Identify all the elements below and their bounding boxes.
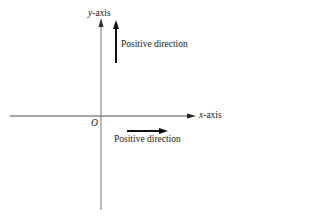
origin-label: O — [91, 119, 98, 129]
x-axis-label: x-axis — [199, 111, 222, 121]
y-positive-direction-label: Positive direction — [121, 40, 188, 50]
x-positive-direction-label: Positive direction — [114, 135, 181, 145]
y-axis-label: y-axis — [88, 9, 111, 19]
y-positive-arrowhead-icon — [113, 20, 119, 29]
y-axis-arrowhead-icon — [99, 18, 104, 27]
x-axis-arrowhead-icon — [187, 114, 196, 119]
